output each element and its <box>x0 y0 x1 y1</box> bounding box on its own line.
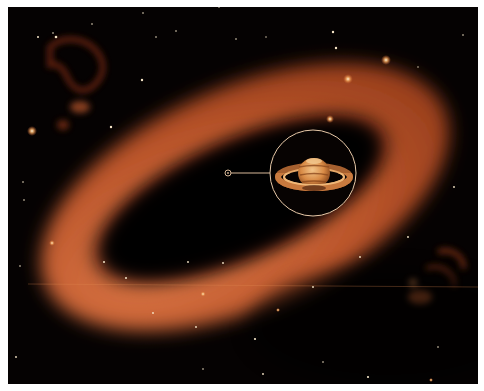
nebula-top-left <box>50 39 103 130</box>
ring-illustration <box>8 7 478 384</box>
space-image <box>8 7 478 384</box>
saturn-inset <box>270 130 356 216</box>
